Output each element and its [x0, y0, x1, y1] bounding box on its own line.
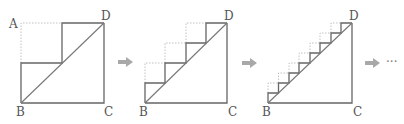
figure-2: D B C — [139, 9, 237, 119]
label-c: C — [353, 105, 362, 119]
dashed-corner — [268, 83, 279, 93]
label-b: B — [139, 105, 148, 119]
label-c: C — [228, 105, 237, 119]
staircase-diagram: A D B C D B C — [0, 0, 404, 124]
figure-3: D B C — [262, 9, 362, 119]
label-d: D — [101, 9, 111, 23]
figure-1: A D B C — [8, 9, 113, 119]
dashed-corner — [331, 23, 341, 33]
dashed-corner — [299, 53, 310, 63]
dashed-corner — [279, 73, 290, 83]
dashed-corner — [310, 43, 320, 53]
diagonal-bd — [145, 23, 227, 103]
label-a: A — [8, 17, 18, 31]
continuation-ellipsis: ··· — [386, 55, 397, 69]
arrow-right-icon — [365, 58, 380, 68]
dashed-corner — [145, 63, 165, 83]
label-c: C — [104, 105, 113, 119]
arrow-right-icon — [242, 58, 257, 68]
label-b: B — [262, 105, 271, 119]
dashed-corner — [320, 33, 331, 43]
label-d: D — [349, 9, 359, 23]
label-b: B — [16, 105, 25, 119]
label-d: D — [224, 9, 234, 23]
dashed-corner — [21, 23, 62, 63]
diagonal-bd — [268, 23, 352, 103]
arrow-right-icon — [118, 57, 133, 67]
dashed-corner — [289, 63, 299, 73]
dashed-corner — [165, 43, 186, 63]
dashed-corner — [186, 23, 206, 43]
